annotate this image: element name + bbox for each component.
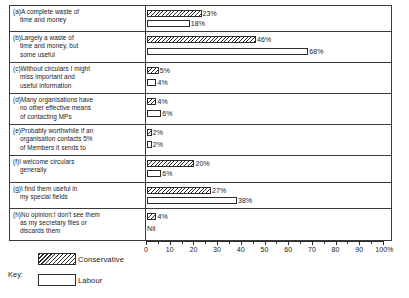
row-label-line: time and money, but <box>13 42 143 50</box>
table-row: (d)Many organisations haveno other effec… <box>10 94 391 125</box>
labour-bar-value: 6% <box>162 110 172 117</box>
labour-bar-line-b: 68% <box>147 48 323 55</box>
conservative-bar-value: 20% <box>195 160 209 167</box>
row-label-line: some useful <box>13 51 143 59</box>
axis-tick <box>241 241 242 245</box>
row-label-line: (e)Probably worthwhile if an <box>13 127 143 135</box>
row-label-c: (c)Without circulars I mightmiss importa… <box>10 63 146 93</box>
labour-bar-value: 2% <box>153 141 163 148</box>
labour-bar-line-a: 18% <box>147 20 205 27</box>
conservative-bar-line-f: 20% <box>147 160 210 167</box>
row-label-f: (f)I welcome circularsgenerally <box>10 156 146 181</box>
axis-tick <box>359 241 360 245</box>
conservative-bar <box>147 67 159 74</box>
axis-minor-tick <box>205 241 206 244</box>
row-bars-c: 5%4% <box>147 63 391 93</box>
legend-title: Key: <box>8 270 23 279</box>
labour-bar-value: 68% <box>309 48 323 55</box>
table-row: (g)I find them useful inmy special field… <box>10 183 391 209</box>
labour-bar-line-f: 6% <box>147 170 173 177</box>
axis-minor-tick <box>276 241 277 244</box>
row-bars-e: 2%2% <box>147 125 391 155</box>
row-label-line: as my secretary files or <box>13 219 143 227</box>
row-bars-f: 20%6% <box>147 156 391 181</box>
conservative-bar-value: 2% <box>153 129 163 136</box>
axis-tick-label: 50 <box>261 246 269 254</box>
axis-minor-tick <box>371 241 372 244</box>
conservative-bar-line-h: 4% <box>147 213 168 220</box>
labour-bar-value: 6% <box>162 170 172 177</box>
axis-tick <box>193 241 194 245</box>
row-label-line: time and money <box>13 16 143 24</box>
axis-tick-label: 70 <box>308 246 316 254</box>
row-label-line: my special fields <box>13 193 143 201</box>
row-label-line: miss important and <box>13 73 143 81</box>
bar-chart: (a)A complete waste oftime and money23%1… <box>0 0 409 298</box>
row-label-line: organisation contacts 5% <box>13 135 143 143</box>
row-label-line: (f)I welcome circulars <box>13 158 143 166</box>
conservative-bar-line-d: 4% <box>147 98 168 105</box>
table-row: (b)Largely a waste oftime and money, but… <box>10 32 391 63</box>
legend-swatch-labour <box>38 274 76 286</box>
conservative-bar-line-c: 5% <box>147 67 170 74</box>
conservative-bar-value: 4% <box>157 98 167 105</box>
row-label-d: (d)Many organisations haveno other effec… <box>10 94 146 124</box>
conservative-bar-value: 4% <box>157 213 167 220</box>
legend-item-conservative: Conservative <box>38 253 124 265</box>
labour-bar <box>147 197 237 204</box>
labour-bar-value: 18% <box>191 20 205 27</box>
axis-tick-label: 30 <box>213 246 221 254</box>
legend-label-labour: Labour <box>78 276 103 285</box>
row-label-line: discards them <box>13 227 143 235</box>
axis-tick-label: 100% <box>375 246 393 254</box>
row-bars-b: 46%68% <box>147 32 391 62</box>
axis-tick <box>217 241 218 245</box>
row-bars-d: 4%6% <box>147 94 391 124</box>
labour-bar <box>147 79 156 86</box>
axis-tick <box>146 241 147 245</box>
row-bars-h: 4%Nil <box>147 209 391 240</box>
conservative-bar-line-a: 23% <box>147 10 217 17</box>
conservative-bar-value: 46% <box>257 36 271 43</box>
conservative-bar-value: 5% <box>160 67 170 74</box>
conservative-bar-line-e: 2% <box>147 129 163 136</box>
row-label-line: (b)Largely a waste of <box>13 34 143 42</box>
labour-bar <box>147 170 161 177</box>
row-label-line: (c)Without circulars I might <box>13 65 143 73</box>
axis-tick <box>170 241 171 245</box>
row-label-b: (b)Largely a waste oftime and money, but… <box>10 32 146 62</box>
table-row: (a)A complete waste oftime and money23%1… <box>10 6 391 32</box>
x-axis: 0102030405060708090100% <box>146 241 383 242</box>
axis-minor-tick <box>324 241 325 244</box>
axis-tick-label: 90 <box>355 246 363 254</box>
legend-item-labour: Labour <box>38 274 103 286</box>
conservative-bar-value: 27% <box>212 187 226 194</box>
table-row: (h)No opinion:I don't see themas my secr… <box>10 209 391 240</box>
axis-minor-tick <box>300 241 301 244</box>
conservative-bar <box>147 213 156 220</box>
axis-tick-label: 40 <box>237 246 245 254</box>
table-row: (e)Probably worthwhile if anorganisation… <box>10 125 391 156</box>
axis-minor-tick <box>182 241 183 244</box>
labour-bar <box>147 110 161 117</box>
labour-bar-value: Nil <box>147 225 155 232</box>
labour-bar-value: 38% <box>238 197 252 204</box>
row-label-line: of Members it sends to <box>13 144 143 152</box>
row-label-h: (h)No opinion:I don't see themas my secr… <box>10 209 146 240</box>
table-row: (f)I welcome circularsgenerally20%6% <box>10 156 391 182</box>
row-label-line: useful information <box>13 82 143 90</box>
labour-bar-line-e: 2% <box>147 141 163 148</box>
conservative-bar-value: 23% <box>203 10 217 17</box>
row-label-g: (g)I find them useful inmy special field… <box>10 183 146 208</box>
table-row: (c)Without circulars I mightmiss importa… <box>10 63 391 94</box>
labour-bar-value: 4% <box>157 79 167 86</box>
row-label-line: (d)Many organisations have <box>13 96 143 104</box>
conservative-bar <box>147 160 194 167</box>
legend-label-conservative: Conservative <box>78 255 124 264</box>
axis-tick <box>383 241 384 245</box>
row-label-line: no other effective means <box>13 104 143 112</box>
axis-minor-tick <box>347 241 348 244</box>
labour-bar <box>147 20 190 27</box>
conservative-bar <box>147 98 156 105</box>
labour-bar <box>147 48 308 55</box>
